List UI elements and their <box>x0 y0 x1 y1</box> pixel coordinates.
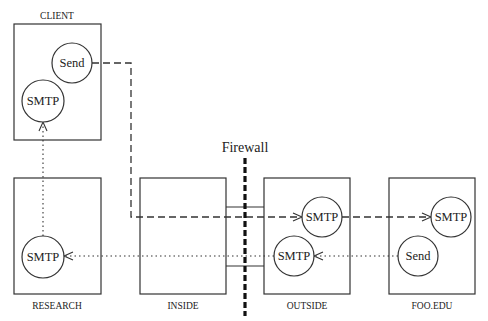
arrowhead-icon <box>314 252 323 260</box>
outside-smtp-lower-node: SMTP <box>274 236 314 276</box>
foo-smtp-label: SMTP <box>435 210 468 224</box>
outside-box <box>264 178 350 294</box>
mail-flow-diagram: Firewall Send SMTP SMTP SMTP SMTP SMTP S… <box>0 0 488 321</box>
outside-smtp-lower-label: SMTP <box>278 249 311 263</box>
research-smtp-node: SMTP <box>22 236 64 278</box>
foo-smtp-node: SMTP <box>431 197 471 237</box>
arrowhead-icon <box>64 252 73 260</box>
client-box-label: CLIENT <box>40 11 74 21</box>
client-send-label: Send <box>60 56 86 70</box>
client-smtp-node: SMTP <box>22 80 64 122</box>
foo-send-label: Send <box>406 249 432 263</box>
inside-box-label: INSIDE <box>167 301 198 311</box>
foo-edu-box-label: FOO.EDU <box>412 301 453 311</box>
outside-smtp-upper-label: SMTP <box>306 210 339 224</box>
outside-smtp-upper-node: SMTP <box>302 197 342 237</box>
edge-client-send-to-outside-smtp <box>92 63 300 217</box>
client-smtp-label: SMTP <box>27 94 60 108</box>
firewall-label: Firewall <box>222 140 269 155</box>
client-send-node: Send <box>52 43 92 83</box>
inside-box <box>140 178 226 294</box>
research-smtp-label: SMTP <box>27 250 60 264</box>
outside-box-label: OUTSIDE <box>287 301 328 311</box>
foo-edu-box <box>389 178 475 294</box>
client-box <box>14 24 101 140</box>
research-box <box>14 178 101 294</box>
research-box-label: RESEARCH <box>32 301 82 311</box>
foo-send-node: Send <box>398 236 438 276</box>
